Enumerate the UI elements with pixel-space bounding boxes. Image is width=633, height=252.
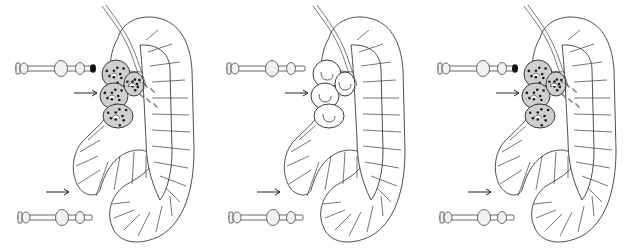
upper-arrow: [496, 90, 519, 96]
top-rod: [227, 61, 307, 77]
bottom-rod: [18, 210, 92, 226]
bottom-rod: [229, 210, 303, 226]
top-rod: [438, 61, 518, 77]
upper-arrow: [74, 90, 97, 96]
bottom-rod: [440, 210, 514, 226]
lower-arrow: [468, 189, 491, 195]
lower-arrow: [257, 189, 280, 195]
upper-arrow: [285, 90, 308, 96]
segmented-organ: [284, 5, 405, 242]
panel-left: [0, 0, 211, 252]
segmented-organ: [495, 5, 616, 242]
figure: [0, 0, 633, 252]
top-rod: [16, 61, 96, 77]
panel-right: [422, 0, 633, 252]
panel-middle: [211, 0, 422, 252]
segmented-organ: [73, 5, 194, 242]
lower-arrow: [46, 189, 69, 195]
